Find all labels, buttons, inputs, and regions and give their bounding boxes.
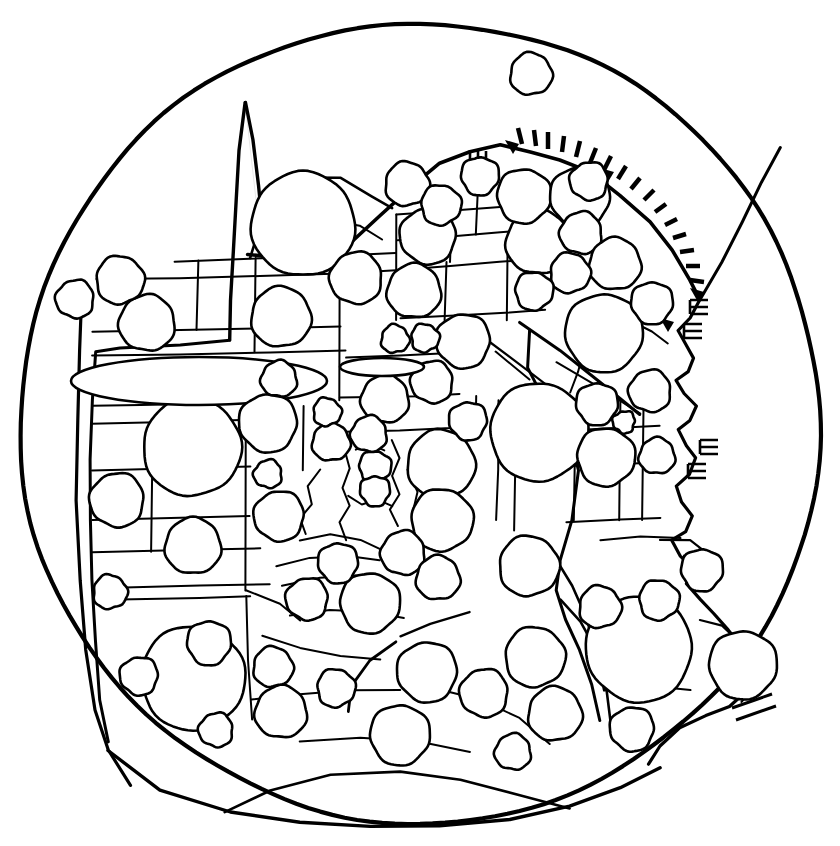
neighborhood-shape-parkside[interactable] — [165, 517, 222, 573]
neighborhood-shape-bernal-heights[interactable] — [500, 536, 560, 597]
neighborhood-shape-potrero-hill[interactable] — [577, 429, 635, 487]
map-canvas — [0, 0, 840, 846]
neighborhood-shape-cole-valley[interactable] — [350, 415, 387, 452]
neighborhood-shape-crocker-amazon[interactable] — [370, 705, 430, 765]
neighborhood-shape-forest-hill[interactable] — [253, 492, 303, 542]
neighborhood-shape-mission-bay[interactable] — [628, 369, 670, 412]
neighborhood-shape-excel-sior[interactable] — [397, 643, 457, 703]
city-boundary-circle — [21, 24, 821, 824]
neighborhood-shape-india-basin[interactable] — [681, 549, 723, 591]
neighborhood-shape-bay-view-park[interactable] — [610, 708, 654, 752]
neighborhood-shape-portola[interactable] — [506, 627, 566, 688]
neighborhood-shape-sunny-dale[interactable] — [494, 733, 531, 770]
sf-neighborhood-map — [0, 0, 840, 846]
neighborhood-shape-the-zoo[interactable] — [94, 574, 129, 609]
neighborhood-shape-alcatraz[interactable] — [510, 52, 553, 95]
neighborhood-shape-tndr-loin[interactable] — [515, 273, 554, 311]
neighborhood-shape-ucsf[interactable] — [314, 397, 343, 426]
neighborhood-shape-inner-richmond[interactable] — [251, 286, 312, 347]
neighborhood-shape-silver-terr[interactable] — [580, 585, 623, 628]
neighborhood-shape-sunny-side[interactable] — [340, 574, 400, 634]
neighborhood-shape-ocean-view[interactable] — [254, 685, 307, 738]
neighborhood-shape-panhandle[interactable] — [340, 358, 424, 376]
neighborhood-shape-sutro-baths[interactable] — [55, 280, 94, 319]
neighborhood-shape-sunset[interactable] — [144, 397, 242, 496]
neighborhood-shape-ft-mason[interactable] — [461, 157, 499, 195]
neighborhood-shape-mclaren-park[interactable] — [459, 669, 508, 718]
neighborhood-shape-south-beach[interactable] — [631, 282, 673, 324]
neighborhood-shape-ala-mo[interactable] — [411, 324, 440, 353]
neighborhood-shape-hayes-valley[interactable] — [436, 315, 490, 369]
neighborhood-shape-sf-su[interactable] — [187, 621, 231, 665]
neighborhood-shape-peaks[interactable] — [360, 476, 390, 506]
neighborhood-shape-visitacion-valley[interactable] — [528, 686, 583, 741]
neighborhood-shape-mt-sutro[interactable] — [312, 422, 351, 461]
neighborhood-shape-financial-dist[interactable] — [589, 237, 642, 289]
neighborhood-shape-diam-ond-hts[interactable] — [380, 530, 425, 575]
neighborhood-shape-down-town[interactable] — [551, 252, 591, 293]
neighborhood-shape-ingleside-terrace[interactable] — [253, 646, 294, 687]
neighborhood-shape-outer-sunset[interactable] — [89, 473, 143, 527]
neighborhood-circles — [55, 52, 777, 770]
neighborhood-shape-sea-cliff[interactable] — [97, 256, 146, 305]
neighborhood-shape-gg-hts[interactable] — [253, 459, 282, 488]
neighborhood-shape-hunters-point[interactable] — [709, 631, 777, 699]
neighborhood-shape-lake-merced[interactable] — [120, 658, 158, 696]
neighborhood-shape-cow-hollow[interactable] — [421, 185, 462, 225]
neighborhood-shape-no-pa[interactable] — [381, 324, 410, 353]
neighborhood-shape-ingleside[interactable] — [317, 669, 356, 708]
neighborhood-shape-inner-sunset[interactable] — [239, 395, 297, 453]
neighborhood-shape-glen-park[interactable] — [416, 555, 461, 600]
